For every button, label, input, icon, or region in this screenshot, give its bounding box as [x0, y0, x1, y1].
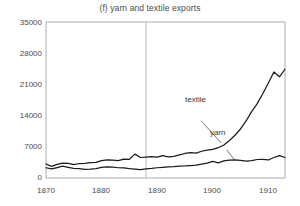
chart-container: (f) yarn and textile exports 35000 28000… — [0, 0, 300, 206]
plot-frame — [46, 22, 285, 178]
plot-area — [0, 0, 300, 206]
series-line-yarn — [46, 156, 285, 170]
annotation-leader-textile — [202, 121, 221, 142]
series-line-textile — [46, 69, 285, 166]
annotation-leader-yarn — [227, 150, 235, 161]
